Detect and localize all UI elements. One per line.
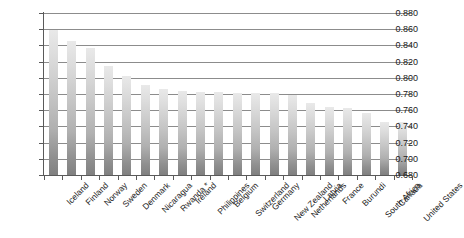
gridline bbox=[44, 126, 412, 127]
gridline bbox=[44, 13, 412, 14]
y-axis-tick-mark bbox=[39, 78, 43, 79]
y-axis-tick-label: 0.740 bbox=[380, 122, 418, 131]
gridline bbox=[44, 45, 412, 46]
y-axis-tick-mark bbox=[39, 143, 43, 144]
x-axis-tick-mark bbox=[210, 176, 211, 180]
y-axis-tick-mark bbox=[39, 13, 43, 14]
plot-area bbox=[44, 13, 412, 175]
gridline bbox=[44, 29, 412, 30]
gridline bbox=[44, 62, 412, 63]
y-axis-tick-mark bbox=[39, 29, 43, 30]
x-axis-tick-mark bbox=[99, 176, 100, 180]
bar bbox=[214, 92, 223, 175]
y-axis-tick-mark bbox=[39, 159, 43, 160]
x-axis-tick-mark bbox=[338, 176, 339, 180]
x-axis-tick-mark bbox=[412, 176, 413, 180]
x-axis-tick-mark bbox=[81, 176, 82, 180]
x-axis-tick-mark bbox=[302, 176, 303, 180]
x-axis-tick-mark bbox=[154, 176, 155, 180]
bar bbox=[306, 103, 315, 175]
bar bbox=[86, 48, 95, 175]
y-axis-tick-label: 0.780 bbox=[380, 90, 418, 99]
bar bbox=[49, 30, 58, 175]
x-axis-tick-label: United States bbox=[422, 181, 464, 223]
gridline bbox=[44, 78, 412, 79]
bar bbox=[141, 85, 150, 175]
x-axis-tick-mark bbox=[44, 176, 45, 180]
gridline bbox=[44, 159, 412, 160]
x-axis-tick-mark bbox=[228, 176, 229, 180]
bar bbox=[325, 107, 334, 175]
bar bbox=[196, 92, 205, 175]
bar bbox=[343, 108, 352, 175]
y-axis-tick-label: 0.720 bbox=[380, 139, 418, 148]
bar bbox=[122, 76, 131, 175]
x-axis-tick-mark bbox=[265, 176, 266, 180]
gridline bbox=[44, 110, 412, 111]
y-axis-tick-label: 0.820 bbox=[380, 58, 418, 67]
bar bbox=[159, 89, 168, 175]
y-axis-tick-label: 0.880 bbox=[380, 9, 418, 18]
y-axis-tick-label: 0.800 bbox=[380, 74, 418, 83]
x-axis-tick-mark bbox=[118, 176, 119, 180]
x-axis-tick-mark bbox=[246, 176, 247, 180]
bar bbox=[104, 66, 113, 175]
y-axis-tick-mark bbox=[39, 45, 43, 46]
bar bbox=[288, 95, 297, 175]
bar bbox=[362, 113, 371, 175]
x-axis-tick-mark bbox=[357, 176, 358, 180]
y-axis-line bbox=[43, 12, 44, 176]
x-axis-tick-mark bbox=[173, 176, 174, 180]
gridline bbox=[44, 143, 412, 144]
x-axis-tick-mark bbox=[375, 176, 376, 180]
bar bbox=[270, 93, 279, 175]
y-axis-tick-mark bbox=[39, 110, 43, 111]
y-axis-tick-mark bbox=[39, 126, 43, 127]
y-axis-tick-label: 0.700 bbox=[380, 155, 418, 164]
x-axis-tick-mark bbox=[191, 176, 192, 180]
x-axis-tick-mark bbox=[320, 176, 321, 180]
y-axis-tick-mark bbox=[39, 62, 43, 63]
bar bbox=[233, 93, 242, 175]
x-axis-tick-mark bbox=[394, 176, 395, 180]
x-axis-tick-mark bbox=[136, 176, 137, 180]
y-axis-tick-label: 0.860 bbox=[380, 25, 418, 34]
x-axis-tick-label: Ireland bbox=[194, 181, 219, 206]
x-axis-tick-mark bbox=[283, 176, 284, 180]
x-axis-tick-mark bbox=[62, 176, 63, 180]
y-axis-tick-mark bbox=[39, 94, 43, 95]
y-axis-tick-label: 0.760 bbox=[380, 106, 418, 115]
x-axis-tick-label: Canada bbox=[397, 181, 424, 208]
gridline bbox=[44, 94, 412, 95]
bar bbox=[178, 91, 187, 175]
y-axis-tick-mark bbox=[39, 175, 43, 176]
bar bbox=[251, 93, 260, 175]
y-axis-tick-label: 0.840 bbox=[380, 41, 418, 50]
bar bbox=[67, 41, 76, 175]
